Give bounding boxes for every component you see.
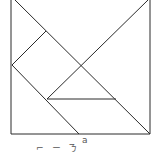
caption-label-a: a	[82, 136, 88, 145]
tangram-diagram	[0, 0, 153, 153]
caption-partial-char-3: ㄋ	[68, 144, 77, 153]
caption-partial-char-1: ⌐	[36, 144, 44, 153]
main-diagonal	[15, 0, 150, 134]
caption-area: a ⌐ ㄧ ㄋ	[0, 136, 153, 153]
square-upper-left-edge	[12, 31, 46, 65]
anti-diagonal	[47, 0, 148, 99]
caption-partial-char-2: ㄧ	[52, 144, 61, 153]
